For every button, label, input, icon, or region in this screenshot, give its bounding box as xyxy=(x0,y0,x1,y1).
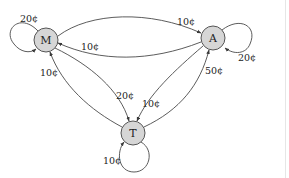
page-edge-divider xyxy=(285,0,286,178)
edge-label-a-t: 10¢ xyxy=(142,98,160,109)
edge-label-a-a: 20¢ xyxy=(238,52,256,63)
edge-m-to-t xyxy=(55,48,129,121)
node-t-label: T xyxy=(129,127,137,140)
node-a-label: A xyxy=(208,32,218,45)
edge-t-to-t-loop xyxy=(119,142,149,172)
node-t: T xyxy=(121,121,145,145)
edge-label-t-t: 10¢ xyxy=(103,155,121,166)
node-m: M xyxy=(34,28,58,52)
node-m-label: M xyxy=(40,34,51,47)
edge-label-t-a: 50¢ xyxy=(205,65,223,76)
node-a: A xyxy=(201,26,225,50)
transition-diagram: M A T 20¢ 20¢ 10¢ 10¢ 10¢ 10¢ 20¢ 10¢ 50… xyxy=(0,0,289,178)
edge-a-to-m xyxy=(58,42,201,57)
edge-label-m-a: 10¢ xyxy=(177,16,195,27)
edge-label-m-t: 20¢ xyxy=(116,90,134,101)
edge-label-t-m: 10¢ xyxy=(40,67,58,78)
edge-label-a-m: 10¢ xyxy=(81,41,99,52)
edge-a-to-t xyxy=(137,46,203,121)
edge-label-m-m: 20¢ xyxy=(20,13,38,24)
edge-a-to-a-loop xyxy=(222,23,252,52)
edge-t-to-a xyxy=(144,50,209,127)
